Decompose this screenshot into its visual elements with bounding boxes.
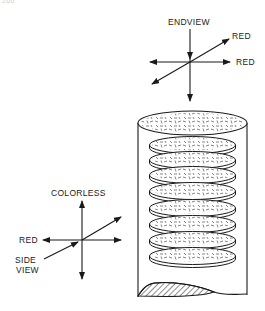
end-view-axes <box>150 29 230 101</box>
sideview-label-line1: SIDE <box>15 256 36 265</box>
endview-label: ENDVIEW <box>168 18 210 27</box>
colorless-label: COLORLESS <box>51 189 106 198</box>
disc-stack <box>150 137 236 268</box>
endview-red-diagonal-label: RED <box>232 32 251 41</box>
endview-red-horizontal-label: RED <box>236 58 255 67</box>
sideview-label-line2: VIEW <box>16 266 39 275</box>
optical-diagram <box>0 0 265 311</box>
side-view-axes <box>43 201 121 279</box>
sideview-red-label: RED <box>19 236 38 245</box>
disc <box>150 248 236 268</box>
